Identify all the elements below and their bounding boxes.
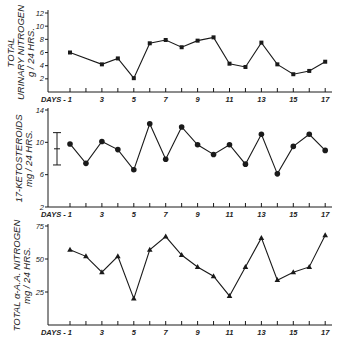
y-tick-label: 6 (40, 48, 45, 57)
chart-panel-ketosteroids: 261014DAYS - 135791113151717-KETOSTEROID… (13, 106, 332, 220)
data-point-marker (163, 157, 169, 163)
y-axis-label: mg / 24 HRS. (21, 247, 32, 304)
data-point-marker (322, 232, 328, 237)
x-tick-label: 13 (257, 210, 266, 219)
y-tick-label: 75 (36, 222, 45, 231)
x-tick-label: 3 (100, 210, 105, 219)
data-point-marker (196, 39, 200, 43)
data-point-marker (99, 139, 105, 145)
y-axis-label: mg / 24 HRS. (23, 130, 34, 187)
data-line (70, 37, 325, 78)
data-point-marker (115, 253, 121, 258)
data-point-marker (259, 41, 263, 45)
data-point-marker (68, 51, 72, 55)
y-tick-label: 14 (36, 106, 44, 115)
data-point-marker (291, 144, 297, 150)
data-point-marker (180, 45, 184, 49)
x-tick-label: 5 (132, 95, 137, 104)
x-tick-label: 13 (257, 95, 266, 104)
x-tick-label: 13 (257, 328, 266, 337)
x-tick-label: 11 (226, 95, 234, 104)
x-tick-label: 17 (321, 328, 330, 337)
data-point-marker (306, 264, 312, 269)
y-tick-label: 12 (36, 9, 45, 18)
data-point-marker (259, 235, 265, 240)
data-point-marker (131, 296, 137, 301)
data-point-marker (323, 60, 327, 64)
x-tick-label: 7 (164, 95, 169, 104)
data-point-marker (195, 142, 201, 148)
y-tick-label: 8 (40, 35, 45, 44)
x-tick-label: DAYS - 1 (41, 210, 72, 219)
data-point-marker (147, 121, 153, 127)
data-point-marker (243, 161, 249, 167)
data-point-marker (67, 141, 73, 147)
x-tick-label: 7 (164, 210, 169, 219)
x-tick-label: 11 (226, 210, 234, 219)
data-point-marker (132, 76, 136, 80)
x-tick-label: DAYS - 1 (41, 95, 72, 104)
data-point-marker (100, 62, 104, 66)
data-point-marker (291, 72, 295, 76)
x-tick-label: 11 (226, 328, 234, 337)
data-point-marker (195, 264, 201, 269)
x-tick-label: 5 (132, 210, 137, 219)
data-point-marker (131, 167, 137, 173)
data-point-marker (164, 38, 168, 42)
x-tick-label: 17 (321, 95, 330, 104)
data-point-marker (243, 65, 247, 69)
data-point-marker (83, 161, 89, 167)
x-tick-label: DAYS - 1 (41, 328, 72, 337)
data-point-marker (163, 234, 169, 239)
chart-figure: 24681012DAYS - 1357911131517TOTALURINARY… (0, 0, 342, 345)
chart-panel-aa-nitrogen: 255075DAYS - 1357911131517TOTAL α-A.A. N… (11, 220, 332, 337)
x-tick-label: 15 (289, 210, 298, 219)
y-tick-label: 10 (36, 22, 45, 31)
data-point-marker (243, 264, 249, 269)
data-point-marker (307, 69, 311, 73)
y-axis-label: g / 24 HRS. (25, 28, 36, 77)
y-tick-label: 50 (36, 255, 45, 264)
x-tick-label: 3 (100, 328, 105, 337)
y-tick-label: 25 (35, 288, 45, 297)
data-point-marker (306, 131, 312, 137)
y-tick-label: 6 (40, 170, 45, 179)
data-point-marker (322, 148, 328, 154)
range-bar (53, 133, 61, 165)
data-line (70, 124, 325, 174)
data-point-marker (67, 247, 73, 252)
x-tick-label: 9 (196, 95, 201, 104)
x-tick-label: 17 (321, 210, 330, 219)
x-tick-label: 9 (196, 328, 201, 337)
y-tick-label: 2 (39, 74, 45, 83)
x-tick-label: 15 (289, 328, 298, 337)
data-point-marker (275, 62, 279, 66)
y-tick-label: 10 (36, 138, 45, 147)
data-point-marker (148, 41, 152, 45)
x-tick-label: 15 (289, 95, 298, 104)
x-tick-label: 3 (100, 95, 105, 104)
data-point-marker (228, 62, 232, 66)
data-point-marker (227, 142, 233, 148)
data-point-marker (212, 35, 216, 39)
y-tick-label: 4 (40, 61, 44, 70)
data-point-marker (115, 147, 121, 153)
data-point-marker (275, 171, 281, 177)
data-point-marker (259, 131, 265, 137)
chart-panel-urinary-nitrogen: 24681012DAYS - 1357911131517TOTALURINARY… (5, 5, 332, 104)
x-tick-label: 7 (164, 328, 169, 337)
x-tick-label: 5 (132, 328, 137, 337)
data-point-marker (211, 152, 217, 158)
x-tick-label: 9 (196, 210, 201, 219)
data-point-marker (179, 124, 185, 130)
data-point-marker (116, 56, 120, 60)
